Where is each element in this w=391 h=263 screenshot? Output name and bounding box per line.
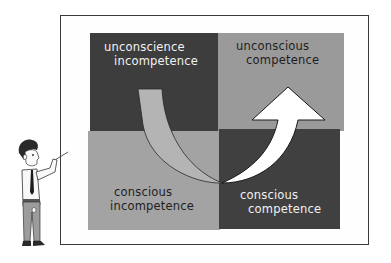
- label-unconscious-incompetence: unconscience incompetence: [104, 40, 198, 68]
- label-line: conscious: [240, 188, 321, 202]
- label-line: incompetence: [110, 199, 194, 213]
- presenter-illustration: [19, 140, 68, 246]
- label-line: unconscience: [104, 40, 198, 54]
- label-line: incompetence: [104, 54, 198, 68]
- label-line: competence: [236, 53, 319, 67]
- arrow-tail: [138, 89, 222, 183]
- arrow-head-shaft: [222, 87, 325, 183]
- label-line: conscious: [110, 185, 194, 199]
- label-line: unconscious: [236, 39, 319, 53]
- label-line: competence: [240, 202, 321, 216]
- label-conscious-competence: conscious competence: [240, 188, 321, 216]
- label-conscious-incompetence: conscious incompetence: [110, 185, 194, 213]
- label-unconscious-competence: unconscious competence: [236, 39, 319, 67]
